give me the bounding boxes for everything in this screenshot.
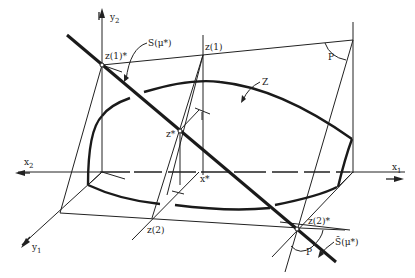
s-mu-label: S(μ*) <box>148 38 172 48</box>
p-bottom-label: P <box>306 247 312 257</box>
y2-arrow-icon <box>99 8 105 18</box>
frame-lines <box>60 22 353 272</box>
y1-axis-label: y1 <box>31 242 42 255</box>
y2-axis: y2 <box>99 8 120 172</box>
z1-star-label: z(1)* <box>105 51 127 61</box>
z-label: Z <box>262 77 268 87</box>
z-surface <box>88 81 353 209</box>
angle-p-top: P <box>325 43 346 62</box>
s-bar-mu-label-group: S̄(μ*) <box>318 236 359 258</box>
x2-axis-label: x2 <box>24 157 34 170</box>
z1-label: z(1) <box>205 42 223 52</box>
z2-star-label: z(2)* <box>308 216 330 226</box>
z-star-label: z* <box>166 129 176 139</box>
z2-label: z(2) <box>147 225 165 235</box>
s-bar-mu-label: S̄(μ*) <box>335 236 359 247</box>
p-top-label: P <box>328 52 334 62</box>
diagram-canvas: y2 x2 x1 y1 <box>0 0 415 278</box>
y2-axis-label: y2 <box>109 12 120 25</box>
x1-axis-label: x1 <box>392 162 402 175</box>
x-star-label: x* <box>200 174 210 184</box>
